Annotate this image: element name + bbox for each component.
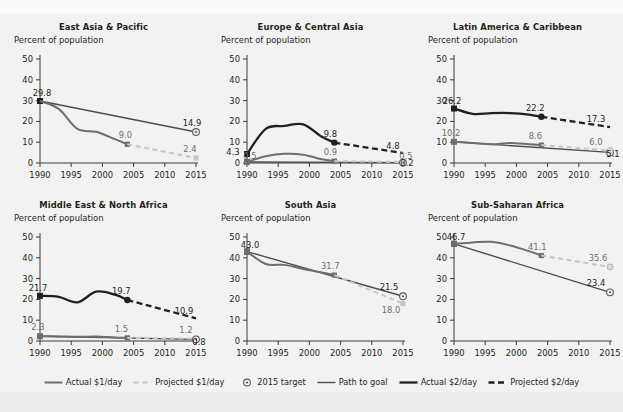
plot-area: 0102030405019901995200020052010201546.72…	[414, 225, 621, 375]
svg-text:18.0: 18.0	[382, 305, 401, 315]
chart-panel: Europe & Central AsiaPercent of populati…	[207, 16, 414, 196]
plot-area: 0102030405019901995200020052010201543.02…	[207, 225, 414, 375]
svg-text:40: 40	[229, 253, 240, 263]
legend-swatch-icon	[235, 378, 254, 387]
svg-text:20: 20	[436, 294, 447, 304]
svg-text:30: 30	[229, 274, 240, 284]
panel-title: Sub-Saharan Africa	[414, 194, 621, 211]
svg-text:0: 0	[442, 336, 447, 346]
svg-text:20: 20	[229, 116, 240, 126]
svg-text:43.0: 43.0	[241, 240, 260, 250]
svg-text:20: 20	[229, 294, 240, 304]
svg-text:0.8: 0.8	[192, 337, 205, 347]
svg-text:1990: 1990	[236, 170, 257, 180]
svg-text:2000: 2000	[92, 348, 113, 358]
legend-item: Projected $1/day	[133, 377, 224, 387]
svg-text:2005: 2005	[330, 170, 351, 180]
svg-text:4.3: 4.3	[226, 147, 239, 157]
panel-grid: East Asia & PacificPercent of population…	[0, 16, 623, 372]
svg-text:21.7: 21.7	[29, 283, 48, 293]
svg-text:0.9: 0.9	[324, 147, 337, 157]
panel-title: Latin America & Caribbean	[414, 16, 621, 33]
legend-label: Path to goal	[339, 377, 388, 387]
svg-text:4.8: 4.8	[386, 141, 399, 151]
svg-text:40: 40	[22, 75, 33, 85]
legend-label: Actual $1/day	[66, 377, 123, 387]
svg-text:10: 10	[229, 137, 240, 147]
svg-text:9.8: 9.8	[324, 129, 337, 139]
svg-text:14.9: 14.9	[183, 118, 202, 128]
svg-text:10.9: 10.9	[175, 306, 194, 316]
svg-text:6.0: 6.0	[589, 137, 602, 147]
svg-text:10: 10	[436, 315, 447, 325]
y-axis-title: Percent of population	[207, 211, 414, 225]
svg-text:0.5: 0.5	[243, 151, 256, 161]
svg-text:1990: 1990	[29, 170, 50, 180]
panel-title: Middle East & North Africa	[0, 194, 207, 211]
svg-text:30: 30	[22, 96, 33, 106]
svg-text:2000: 2000	[299, 348, 320, 358]
svg-text:2010: 2010	[361, 348, 382, 358]
legend-swatch-icon	[133, 378, 152, 387]
svg-text:8.6: 8.6	[529, 131, 542, 141]
svg-text:1995: 1995	[268, 348, 289, 358]
svg-text:1995: 1995	[475, 348, 496, 358]
svg-text:2005: 2005	[330, 348, 351, 358]
chart-panel: East Asia & PacificPercent of population…	[0, 16, 207, 196]
plot-area: 010203040501990199520002005201020154.39.…	[207, 47, 414, 197]
svg-text:40: 40	[436, 253, 447, 263]
svg-text:0: 0	[442, 158, 447, 168]
y-axis-title: Percent of population	[207, 33, 414, 47]
legend-swatch-icon	[317, 378, 336, 387]
chart-panel: Middle East & North AfricaPercent of pop…	[0, 194, 207, 374]
svg-text:50: 50	[22, 54, 33, 64]
svg-text:50: 50	[436, 232, 447, 242]
svg-text:2010: 2010	[568, 170, 589, 180]
svg-text:10: 10	[229, 315, 240, 325]
svg-text:0: 0	[235, 158, 240, 168]
svg-text:22.2: 22.2	[526, 103, 545, 113]
svg-text:46.7: 46.7	[447, 232, 466, 242]
svg-text:20: 20	[22, 116, 33, 126]
svg-text:0: 0	[28, 336, 33, 346]
panel-title: South Asia	[207, 194, 414, 211]
svg-text:40: 40	[229, 75, 240, 85]
svg-text:40: 40	[22, 253, 33, 263]
svg-text:2000: 2000	[506, 348, 527, 358]
legend-swatch-icon	[488, 378, 507, 387]
svg-text:21.5: 21.5	[380, 282, 399, 292]
svg-text:1.5: 1.5	[115, 324, 128, 334]
svg-text:2015: 2015	[599, 348, 620, 358]
svg-text:1990: 1990	[443, 348, 464, 358]
svg-text:1.2: 1.2	[179, 325, 192, 335]
legend-label: 2015 target	[257, 377, 305, 387]
svg-text:5.1: 5.1	[606, 149, 619, 159]
svg-text:0.5: 0.5	[399, 151, 412, 161]
svg-text:0: 0	[235, 336, 240, 346]
svg-text:1990: 1990	[236, 348, 257, 358]
svg-text:50: 50	[22, 232, 33, 242]
panel-title: Europe & Central Asia	[207, 16, 414, 33]
chart-legend: Actual $1/dayProjected $1/day2015 target…	[0, 372, 623, 392]
svg-text:20: 20	[436, 116, 447, 126]
svg-text:10: 10	[436, 137, 447, 147]
legend-label: Projected $2/day	[510, 377, 579, 387]
svg-text:31.7: 31.7	[321, 261, 340, 271]
svg-text:2005: 2005	[537, 348, 558, 358]
svg-text:10: 10	[22, 137, 33, 147]
svg-text:1995: 1995	[475, 170, 496, 180]
svg-text:17.3: 17.3	[587, 114, 606, 124]
legend-item: Actual $2/day	[399, 377, 478, 387]
svg-text:1995: 1995	[61, 170, 82, 180]
y-axis-title: Percent of population	[0, 211, 207, 225]
legend-item: 2015 target	[235, 377, 305, 387]
legend-swatch-icon	[399, 378, 418, 387]
svg-text:2015: 2015	[599, 170, 620, 180]
legend-item: Actual $1/day	[44, 377, 123, 387]
svg-text:2015: 2015	[185, 348, 206, 358]
page-top-strip	[0, 0, 623, 14]
page-bottom-strip	[0, 392, 623, 412]
svg-text:2.3: 2.3	[31, 322, 44, 332]
svg-text:1995: 1995	[61, 348, 82, 358]
plot-area: 0102030405019901995200020052010201521.71…	[0, 225, 207, 375]
